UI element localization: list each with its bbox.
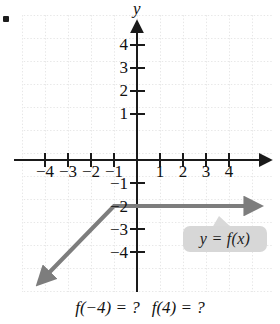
y-axis-label: y [133, 0, 141, 19]
y-tick-label--3: −3 [104, 221, 128, 239]
function-label-callout: y = f(x) [183, 226, 267, 252]
x-tick-label-3: 3 [196, 163, 216, 181]
y-tick-label--1: −1 [104, 175, 128, 193]
x-tick-label-1: 1 [150, 163, 170, 181]
y-tick-label--2: −2 [104, 198, 128, 216]
coordinate-plane [0, 0, 280, 300]
x-tick-label--4: −4 [33, 163, 57, 181]
question-line: f(−4) = ?f(4) = ? [0, 298, 280, 318]
function-graph-figure: y −4 −3 −2 −1 1 2 3 4 4 3 2 1 −1 −2 −3 −… [0, 0, 280, 324]
question-left: f(−4) = ? [75, 298, 140, 317]
question-right: f(4) = ? [152, 298, 205, 317]
x-tick-label-2: 2 [173, 163, 193, 181]
y-tick-label-4: 4 [110, 36, 128, 54]
y-tick-label--4: −4 [104, 244, 128, 262]
x-tick-label-4: 4 [219, 163, 239, 181]
y-tick-label-1: 1 [110, 105, 128, 123]
y-tick-label-2: 2 [110, 82, 128, 100]
x-tick-label--3: −3 [56, 163, 80, 181]
x-tick-label--2: −2 [79, 163, 103, 181]
y-tick-label-3: 3 [110, 59, 128, 77]
